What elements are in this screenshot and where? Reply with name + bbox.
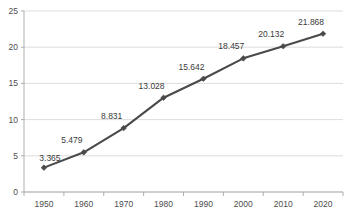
data-point-label: 13.028	[139, 81, 165, 91]
chart-background	[0, 0, 352, 221]
x-axis-tick-label: 1980	[154, 199, 173, 209]
y-axis-tick-label: 5	[13, 151, 18, 161]
y-axis-tick-label: 20	[9, 42, 19, 52]
data-point-label: 3.365	[39, 153, 61, 163]
data-point-label: 18.457	[218, 41, 244, 51]
x-axis-tick-label: 1950	[34, 199, 53, 209]
y-axis-tick-label: 0	[13, 187, 18, 197]
chart-canvas: 0510152025 19501960197019801990200020102…	[0, 0, 352, 221]
x-axis-tick-label: 1960	[74, 199, 93, 209]
data-point-label: 8.831	[101, 111, 123, 121]
data-point-label: 21.868	[298, 17, 324, 27]
data-point-label: 5.479	[61, 135, 83, 145]
x-axis-tick-label: 2000	[234, 199, 253, 209]
y-axis-tick-label: 15	[9, 78, 19, 88]
y-axis-tick-label: 10	[9, 115, 19, 125]
x-axis-tick-label: 2020	[314, 199, 333, 209]
y-axis-tick-label: 25	[9, 6, 19, 16]
line-chart: 0510152025 19501960197019801990200020102…	[0, 0, 352, 221]
x-axis-tick-label: 1970	[114, 199, 133, 209]
data-point-label: 20.132	[258, 29, 284, 39]
x-axis-tick-label: 1990	[194, 199, 213, 209]
x-axis-tick-label: 2010	[274, 199, 293, 209]
data-point-label: 15.642	[178, 62, 204, 72]
